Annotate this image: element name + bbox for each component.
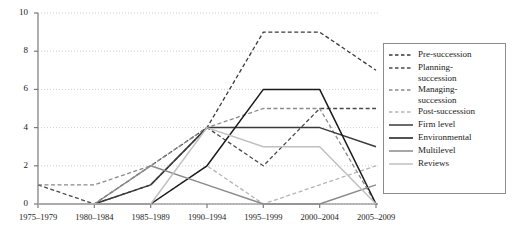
series-line xyxy=(38,89,376,204)
x-tick-label: 1990–1994 xyxy=(177,212,237,222)
x-tick-label: 1975–1979 xyxy=(8,212,68,222)
legend-item-label: Post-succession xyxy=(418,106,475,117)
legend-item-label: Environmental xyxy=(418,132,472,143)
series-line xyxy=(38,109,376,205)
legend-line-swatch xyxy=(389,84,413,95)
series-line xyxy=(38,32,376,204)
legend-line-swatch xyxy=(389,49,413,60)
x-tick-label: 2005–2009 xyxy=(346,212,406,222)
series-line xyxy=(38,109,376,205)
legend-item: Pre-succession xyxy=(389,49,502,61)
x-tick-label: 1980–1984 xyxy=(64,212,124,222)
legend-line-swatch xyxy=(389,106,413,117)
y-tick-label: 4 xyxy=(8,123,28,132)
legend-item-label: Managing-succession xyxy=(418,84,458,105)
legend-item: Environmental xyxy=(389,132,502,144)
legend-line-swatch xyxy=(389,158,413,169)
line-chart: 0246810 1975–19791980–19841985–19891990–… xyxy=(0,0,513,244)
legend-item: Managing-succession xyxy=(389,84,502,105)
legend-item: Firm level xyxy=(389,119,502,131)
x-tick-label: 1995–1999 xyxy=(233,212,293,222)
x-tick-label: 1985–1989 xyxy=(121,212,181,222)
legend-item-label: Firm level xyxy=(418,119,455,130)
legend-item-label: Reviews xyxy=(418,158,449,169)
y-tick-label: 8 xyxy=(8,46,28,55)
legend-item-label: Pre-succession xyxy=(418,49,472,60)
legend-line-swatch xyxy=(389,119,413,130)
legend-line-swatch xyxy=(389,132,413,143)
legend-item: Planning-succession xyxy=(389,62,502,83)
legend-line-swatch xyxy=(389,62,413,73)
y-tick-label: 10 xyxy=(8,8,28,17)
legend-item-label: Planning-succession xyxy=(418,62,457,83)
series-line xyxy=(38,166,376,204)
chart-legend: Pre-successionPlanning-successionManagin… xyxy=(383,43,506,194)
legend-line-swatch xyxy=(389,145,413,156)
legend-item: Multilevel xyxy=(389,145,502,157)
legend-item-label: Multilevel xyxy=(418,145,456,156)
y-tick-label: 0 xyxy=(8,199,28,208)
x-tick-label: 2000–2004 xyxy=(290,212,350,222)
legend-item: Post-succession xyxy=(389,106,502,118)
legend-item: Reviews xyxy=(389,158,502,170)
y-tick-label: 2 xyxy=(8,161,28,170)
y-tick-label: 6 xyxy=(8,84,28,93)
